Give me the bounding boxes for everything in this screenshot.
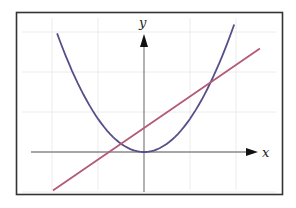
- frame: [17, 13, 283, 195]
- grid-lines: [22, 18, 276, 192]
- y-axis-arrow-icon: [140, 34, 148, 47]
- linear-line: [53, 48, 260, 190]
- chart: x y: [0, 0, 296, 208]
- x-axis-label: x: [262, 145, 270, 160]
- x-axis-arrow-icon: [246, 148, 258, 156]
- y-axis-label: y: [138, 15, 147, 30]
